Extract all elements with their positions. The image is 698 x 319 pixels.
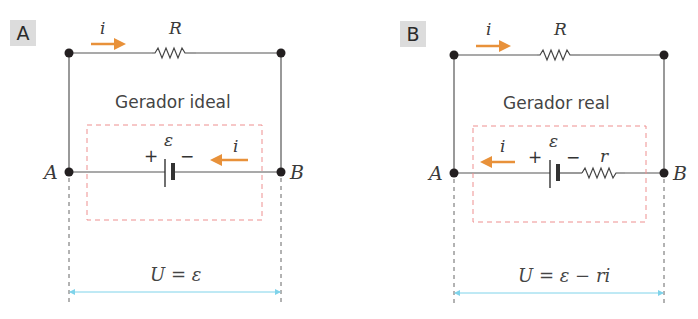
node-B-b bbox=[660, 169, 669, 178]
top-current-label-a: i bbox=[100, 18, 105, 38]
emf-label-a: ε bbox=[164, 130, 173, 150]
resistor-label-a: R bbox=[169, 18, 182, 38]
node-A-a bbox=[65, 168, 74, 177]
current-arrow-top-b bbox=[476, 40, 511, 52]
node-top-left-a bbox=[65, 49, 74, 58]
battery-plate-short-b bbox=[556, 164, 560, 181]
inner-current-label-b: i bbox=[500, 136, 505, 156]
minus-label-b: − bbox=[566, 147, 580, 167]
node-top-right-b bbox=[660, 51, 669, 60]
node-B-a bbox=[277, 168, 286, 177]
resistor-R-b bbox=[537, 50, 580, 60]
node-top-left-b bbox=[450, 51, 459, 60]
current-arrow-top-a bbox=[91, 38, 126, 50]
equation-b: U = ε − ri bbox=[518, 265, 610, 286]
plus-label-a: + bbox=[144, 146, 158, 166]
resistor-label-b: R bbox=[554, 19, 567, 39]
node-top-right-a bbox=[277, 49, 286, 58]
equation-a: U = ε bbox=[150, 264, 201, 285]
node-A-b bbox=[450, 169, 459, 178]
emf-label-b: ε bbox=[549, 131, 558, 151]
top-current-label-b: i bbox=[486, 19, 491, 39]
node-label-B-b: B bbox=[673, 162, 687, 184]
node-label-B-a: B bbox=[290, 161, 304, 183]
internal-resistor-label-b: r bbox=[600, 146, 608, 166]
battery-plate-short-a bbox=[171, 163, 175, 180]
resistor-r-b bbox=[582, 168, 625, 178]
panel-title-b: Gerador real bbox=[503, 93, 610, 113]
panel-title-a: Gerador ideal bbox=[115, 92, 231, 112]
panel-badge-a: A bbox=[10, 20, 36, 46]
plus-label-b: + bbox=[528, 147, 542, 167]
diagram-stage: A i R Gerador ideal ε i + − A B U = ε B … bbox=[0, 0, 698, 319]
resistor-R-a bbox=[152, 48, 196, 58]
inner-current-label-a: i bbox=[233, 136, 238, 156]
minus-label-a: − bbox=[180, 146, 194, 166]
current-arrow-inner-a bbox=[210, 154, 248, 166]
node-label-A-a: A bbox=[44, 161, 58, 183]
panel-badge-b: B bbox=[400, 21, 426, 47]
node-label-A-b: A bbox=[429, 162, 443, 184]
current-arrow-inner-b bbox=[480, 156, 515, 168]
